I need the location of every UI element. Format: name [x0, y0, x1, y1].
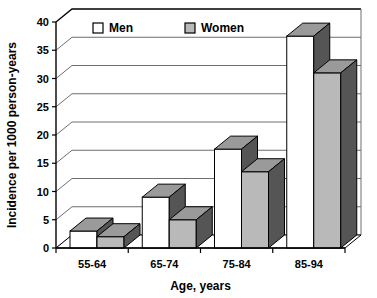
- bar-front-face: [314, 73, 341, 248]
- x-tick-label-65-74: 65-74: [150, 258, 179, 270]
- legend-label-women: Women: [201, 21, 244, 35]
- y-tick-label-35: 35: [37, 44, 49, 56]
- legend-label-men: Men: [109, 21, 133, 35]
- y-tick-label-10: 10: [37, 186, 49, 198]
- legend-group: MenWomen: [93, 21, 244, 35]
- bar-side-face: [341, 60, 357, 248]
- x-tick-label-85-94: 85-94: [295, 258, 324, 270]
- bar-front-face: [169, 220, 196, 248]
- x-tick-label-55-64: 55-64: [78, 258, 107, 270]
- bar-front-face: [97, 237, 124, 248]
- y-tick-label-0: 0: [43, 242, 49, 254]
- y-tick-label-25: 25: [37, 101, 49, 113]
- bar-front-face: [70, 231, 97, 248]
- bar-front-face: [287, 36, 314, 248]
- y-tick-label-5: 5: [43, 214, 49, 226]
- bar-front-face: [242, 172, 269, 248]
- y-tick-label-40: 40: [37, 16, 49, 28]
- y-tick-label-15: 15: [37, 157, 49, 169]
- bar-front-face: [142, 197, 169, 248]
- bar-front-face: [215, 149, 242, 248]
- bars-group: [70, 23, 357, 248]
- legend-swatch-women: [185, 23, 195, 33]
- x-axis-title: Age, years: [170, 279, 231, 293]
- y-axis-title: Incidence per 1000 person-years: [5, 42, 19, 228]
- bar-women-75-84: [242, 159, 285, 248]
- y-tick-label-30: 30: [37, 73, 49, 85]
- chart-container: 051015202530354055-6465-7475-8485-94Age,…: [0, 0, 377, 298]
- labels-group: 051015202530354055-6465-7475-8485-94Age,…: [5, 16, 324, 293]
- bar-side-face: [269, 159, 285, 248]
- x-tick-label-75-84: 75-84: [223, 258, 252, 270]
- bar-women-85-94: [314, 60, 357, 248]
- legend-swatch-men: [93, 23, 103, 33]
- bar-chart: 051015202530354055-6465-7475-8485-94Age,…: [0, 0, 377, 298]
- y-tick-label-20: 20: [37, 129, 49, 141]
